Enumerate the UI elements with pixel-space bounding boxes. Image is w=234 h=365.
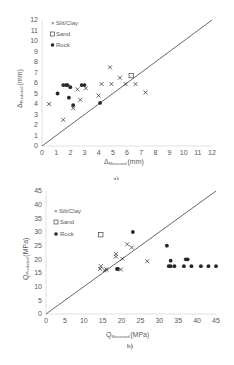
data-point-silt-clay (99, 264, 103, 268)
y-tick-label: 11 (31, 27, 38, 34)
legend-rock: Rock (56, 42, 71, 48)
x-tick-label: 0 (44, 317, 48, 324)
x-tick-label: 5 (63, 317, 67, 324)
data-point-silt-clay (114, 252, 118, 256)
legend-marker-square (54, 220, 58, 224)
legend-marker-circle (54, 232, 58, 236)
x-axis-label: ΔMeasured(mm) (104, 158, 144, 166)
data-point-rock (68, 85, 72, 89)
legend-marker-x: × (51, 20, 55, 26)
data-point-silt-clay (120, 257, 124, 261)
data-point-sand (99, 233, 103, 237)
data-point-rock (165, 244, 169, 248)
x-tick-label: 40 (193, 317, 201, 324)
x-tick-label: 7 (139, 149, 143, 156)
data-point-silt-clay (97, 94, 101, 98)
x-tick-label: 3 (83, 149, 87, 156)
data-point-silt-clay (114, 255, 118, 259)
data-point-sand (129, 73, 133, 77)
x-tick-label: 11 (194, 149, 201, 156)
data-point-silt-clay (78, 98, 82, 102)
y-tick-label: 1 (34, 132, 38, 139)
y-tick-label: 3 (34, 111, 38, 118)
y-tick-label: 6 (34, 79, 38, 86)
data-point-silt-clay (104, 267, 108, 271)
x-tick-label: 0 (40, 149, 44, 156)
data-point-rock (71, 103, 75, 107)
reference-line (46, 191, 216, 314)
data-point-rock (207, 264, 211, 268)
data-point-rock (167, 264, 171, 268)
data-point-rock (131, 230, 135, 234)
data-point-rock (169, 259, 173, 263)
data-point-rock (169, 264, 173, 268)
y-tick-label: 30 (34, 228, 42, 235)
legend-sand: Sand (56, 31, 70, 37)
x-tick-label: 12 (208, 149, 216, 156)
legend-sand: Sand (60, 219, 74, 225)
y-tick-label: 35 (34, 215, 42, 222)
data-point-silt-clay (145, 259, 149, 263)
data-point-silt-clay (98, 267, 102, 271)
y-tick-label: 0 (38, 310, 42, 317)
data-point-silt-clay (103, 268, 107, 272)
y-axis-label: ΔPredicted(mm) (16, 69, 24, 108)
y-tick-label: 15 (34, 269, 42, 276)
data-point-rock (182, 264, 186, 268)
data-point-silt-clay (100, 82, 104, 86)
data-point-silt-clay (130, 246, 134, 250)
legend-marker-square (51, 32, 55, 36)
y-tick-label: 0 (34, 142, 38, 149)
data-point-silt-clay (125, 242, 129, 246)
data-point-silt-clay (124, 82, 128, 86)
x-tick-label: 30 (155, 317, 163, 324)
legend: × Silt/Clay Sand Rock (54, 208, 81, 237)
data-point-rock (173, 264, 177, 268)
x-tick-label: 10 (180, 149, 188, 156)
y-tick-label: 8 (34, 58, 38, 65)
data-point-rock (199, 264, 203, 268)
y-tick-label: 40 (34, 201, 42, 208)
data-point-rock (115, 267, 119, 271)
x-tick-label: 25 (137, 317, 145, 324)
data-point-rock (56, 92, 60, 96)
caption-a: a) (113, 175, 119, 180)
legend-rock: Rock (60, 231, 75, 237)
y-tick-label: 10 (30, 37, 38, 44)
y-tick-label: 2 (34, 121, 38, 128)
data-point-silt-clay (109, 82, 113, 86)
data-point-silt-clay (108, 65, 112, 69)
data-point-silt-clay (143, 90, 147, 94)
data-point-rock (67, 96, 71, 100)
data-point-rock (190, 264, 194, 268)
data-point-silt-clay (119, 267, 123, 271)
y-tick-label: 45 (34, 187, 42, 194)
x-tick-label: 35 (174, 317, 182, 324)
legend-marker-circle (51, 43, 55, 47)
x-tick-label: 15 (99, 317, 107, 324)
x-tick-label: 10 (80, 317, 88, 324)
x-tick-label: 2 (68, 149, 72, 156)
data-point-rock (83, 83, 87, 87)
data-point-silt-clay (75, 87, 79, 91)
legend-silt: Silt/Clay (59, 208, 81, 214)
y-tick-label: 10 (34, 283, 42, 290)
y-tick-label: 7 (34, 69, 38, 76)
x-axis-label: QMeasured(MPa) (106, 331, 149, 339)
y-tick-label: 5 (34, 90, 38, 97)
data-point-silt-clay (134, 82, 138, 86)
x-tick-label: 6 (125, 149, 129, 156)
data-point-rock (98, 101, 102, 105)
y-axis-label: QPredicted(MPa) (22, 238, 30, 280)
y-tick-label: 4 (34, 100, 38, 107)
data-point-silt-clay (118, 76, 122, 80)
x-tick-label: 45 (212, 317, 220, 324)
data-point-rock (116, 267, 120, 271)
chart-a: 01234567891011120123456789101112 × Silt/… (0, 0, 234, 180)
caption-b: b) (127, 342, 134, 350)
y-tick-label: 12 (30, 16, 38, 23)
y-tick-label: 20 (34, 256, 42, 263)
legend: × Silt/Clay Sand Rock (51, 20, 79, 48)
y-tick-label: 25 (34, 242, 42, 249)
x-tick-label: 20 (118, 317, 126, 324)
